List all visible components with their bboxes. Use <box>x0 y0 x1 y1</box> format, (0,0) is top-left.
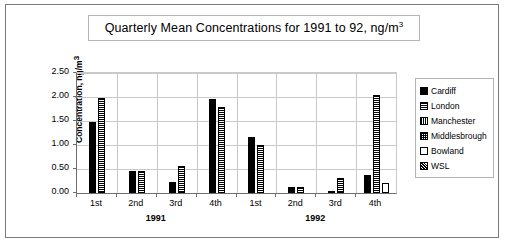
y-axis-tick-label: 2.00 <box>35 91 69 100</box>
legend-item[interactable]: Cardiff <box>420 83 493 98</box>
bar <box>297 187 304 193</box>
bar <box>178 166 185 193</box>
bar <box>328 191 335 193</box>
legend-item-label: Cardiff <box>431 86 456 96</box>
y-axis-tick-label: 0.50 <box>35 163 69 172</box>
category-separator <box>237 73 238 193</box>
category-separator <box>316 73 317 193</box>
y-axis-tick-label: 1.50 <box>35 115 69 124</box>
category-separator <box>157 73 158 193</box>
bar <box>209 99 216 193</box>
bar <box>373 95 380 193</box>
legend-item[interactable]: Middlesbrough <box>420 128 493 143</box>
y-axis-tick-label: 1.00 <box>35 139 69 148</box>
legend-swatch-icon <box>420 162 428 170</box>
plot-area <box>76 72 397 194</box>
bar <box>382 183 389 193</box>
legend-item-label: Middlesbrough <box>431 131 487 141</box>
legend-item[interactable]: Bowland <box>420 143 493 158</box>
legend-swatch-icon <box>420 117 428 125</box>
legend-item-label: WSL <box>431 161 449 171</box>
category-separator <box>276 73 277 193</box>
chart-title-text: Quarterly Mean Concentrations for 1991 t… <box>105 20 404 35</box>
category-separator <box>356 73 357 193</box>
chart-title-main: Quarterly Mean Concentrations for 1991 t… <box>105 22 399 36</box>
bar <box>89 122 96 193</box>
x-axis-tick-label: 4th <box>355 198 395 208</box>
bar <box>169 182 176 193</box>
y-axis-title-superscript: 3 <box>72 56 81 60</box>
x-axis-tick-label: 4th <box>196 198 236 208</box>
legend-item-label: Bowland <box>431 146 464 156</box>
legend-item[interactable]: London <box>420 98 493 113</box>
legend-item[interactable]: WSL <box>420 158 493 173</box>
bar <box>257 145 264 193</box>
chart-title-superscript: 3 <box>399 20 404 29</box>
legend-item-label: London <box>431 101 459 111</box>
bar <box>248 137 255 193</box>
legend-item-label: Manchester <box>431 116 475 126</box>
bar <box>288 187 295 193</box>
x-axis-tick-label: 3rd <box>315 198 355 208</box>
bar <box>218 107 225 193</box>
bar <box>138 171 145 193</box>
legend-swatch-icon <box>420 132 428 140</box>
y-axis-tick-label: 2.50 <box>35 67 69 76</box>
legend: CardiffLondonManchesterMiddlesbroughBowl… <box>415 78 494 178</box>
x-axis-tick-label: 2nd <box>275 198 315 208</box>
chart-title: Quarterly Mean Concentrations for 1991 t… <box>88 15 420 41</box>
x-axis-group-label: 1991 <box>111 213 201 223</box>
category-separator <box>117 73 118 193</box>
bar <box>129 171 136 193</box>
bar <box>98 98 105 193</box>
x-axis-tick-label: 1st <box>76 198 116 208</box>
legend-swatch-icon <box>420 87 428 95</box>
category-separator <box>197 73 198 193</box>
legend-item[interactable]: Manchester <box>420 113 493 128</box>
chart-frame: Quarterly Mean Concentrations for 1991 t… <box>5 4 499 238</box>
x-axis-tick-label: 3rd <box>156 198 196 208</box>
y-axis-tick-label: 0.00 <box>35 187 69 196</box>
x-axis-group-label: 1992 <box>270 213 360 223</box>
legend-swatch-icon <box>420 147 428 155</box>
legend-swatch-icon <box>420 102 428 110</box>
bar <box>364 175 371 193</box>
x-axis-tick-label: 2nd <box>116 198 156 208</box>
x-axis-tick-label: 1st <box>235 198 275 208</box>
bar <box>337 178 344 193</box>
